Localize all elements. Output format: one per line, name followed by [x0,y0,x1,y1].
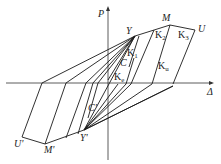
label-M: M [161,12,171,23]
label-Y: Y [126,25,133,36]
x-axis-label: Δ [206,86,213,97]
label-Ke: Ke [114,71,124,84]
label-U-prime: U' [14,138,24,149]
label-K3: K3 [178,29,189,42]
label-C-prime: C' [88,102,98,113]
y-axis-arrow-icon [106,6,110,11]
fan-Y-prime-1 [84,86,173,130]
y-axis-label: P [97,8,104,19]
hysteresis-loops [22,25,195,144]
label-K1: K1 [127,47,138,60]
x-axis-arrow-icon [209,81,214,85]
label-C: C [120,57,127,68]
unload-from-U-prime [22,83,42,137]
label-U: U [198,23,206,34]
unload-K2-neg [66,83,86,138]
label-M-prime: M' [43,144,55,155]
label-K2: K2 [155,29,166,42]
label-Ku: Ku [158,60,169,73]
unload-from-M-prime [45,83,66,144]
hysteresis-diagram: P Δ [0,0,221,164]
negative-backbone [22,130,84,144]
label-Y-prime: Y' [80,132,89,143]
